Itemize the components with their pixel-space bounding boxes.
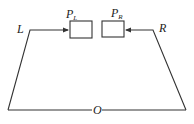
- label-p-l-sub: L: [72, 14, 77, 22]
- label-p-l: PL: [65, 7, 77, 22]
- label-o: O: [93, 103, 102, 117]
- label-p-r-sub: R: [117, 13, 123, 21]
- diagram-canvas: L R O PL PR: [0, 0, 194, 124]
- label-r: R: [158, 21, 167, 35]
- box-p-l: [70, 21, 92, 38]
- left-path-line: [8, 30, 68, 110]
- diagram-svg: L R O PL PR: [0, 0, 194, 124]
- right-path-line: [126, 30, 186, 110]
- label-p-r: PR: [110, 6, 123, 21]
- box-p-r: [102, 21, 124, 37]
- label-l: L: [16, 22, 24, 36]
